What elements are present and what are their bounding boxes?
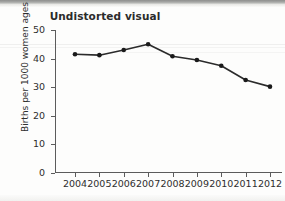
scan-artifact-bottom bbox=[0, 195, 285, 201]
data-point-marker bbox=[219, 63, 224, 68]
x-axis-tick-label: 2004 bbox=[63, 178, 87, 189]
x-axis-tick-label: 2009 bbox=[185, 178, 209, 189]
y-axis-tick-label: 50 bbox=[33, 24, 45, 35]
y-axis-tick-label: 20 bbox=[33, 110, 45, 121]
data-point-marker bbox=[97, 53, 102, 58]
chart-title: Undistorted visual bbox=[0, 10, 210, 22]
x-axis-tick-label: 2012 bbox=[258, 178, 282, 189]
chart-page: Undistorted visual Births per 1000 women… bbox=[0, 0, 285, 201]
x-axis-tick-label: 2008 bbox=[160, 178, 184, 189]
x-axis-tick bbox=[148, 173, 149, 177]
data-point-marker bbox=[146, 42, 151, 47]
x-axis-tick-label: 2006 bbox=[112, 178, 136, 189]
data-point-marker bbox=[73, 52, 78, 57]
data-point-marker bbox=[243, 78, 248, 83]
scan-artifact-top-fade bbox=[0, 4, 285, 7]
x-axis-tick bbox=[197, 173, 198, 177]
y-axis-tick-label: 30 bbox=[33, 81, 45, 92]
y-axis-title: Births per 1000 women ages 15-19 bbox=[20, 0, 30, 132]
x-axis-tick-label: 2005 bbox=[87, 178, 111, 189]
data-point-marker bbox=[121, 48, 126, 53]
data-point-marker bbox=[170, 54, 175, 59]
x-axis-tick-label: 2007 bbox=[136, 178, 160, 189]
x-axis-tick bbox=[246, 173, 247, 177]
data-point-marker bbox=[268, 84, 273, 89]
x-axis-tick bbox=[173, 173, 174, 177]
series-polyline bbox=[75, 44, 270, 86]
y-axis-tick-label: 10 bbox=[33, 138, 45, 149]
y-axis-tick: 0 bbox=[51, 173, 55, 174]
x-axis-tick bbox=[99, 173, 100, 177]
plot-area: 01020304050 2004200520062007200820092010… bbox=[55, 30, 282, 173]
x-axis-tick-label: 2011 bbox=[234, 178, 258, 189]
data-series-line bbox=[55, 30, 282, 173]
x-axis-tick bbox=[221, 173, 222, 177]
y-axis-tick-label: 40 bbox=[33, 53, 45, 64]
x-axis-tick bbox=[75, 173, 76, 177]
y-axis-tick-label: 0 bbox=[39, 167, 45, 178]
x-axis-tick bbox=[270, 173, 271, 177]
x-axis-tick bbox=[124, 173, 125, 177]
data-point-marker bbox=[195, 58, 200, 63]
x-axis-tick-label: 2010 bbox=[209, 178, 233, 189]
